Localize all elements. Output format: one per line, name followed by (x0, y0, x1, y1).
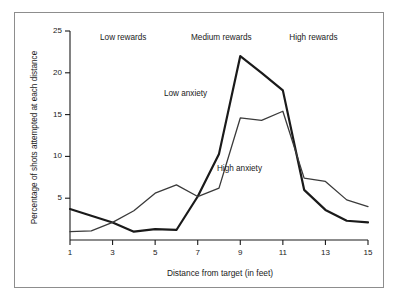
x-tick-label-11: 11 (271, 248, 295, 257)
x-tick-label-1: 1 (58, 248, 82, 257)
y-tick-marks (65, 31, 70, 198)
region-label-medium-rewards: Medium rewards (191, 33, 252, 42)
chart-figure: 510152025 13579111315 Percentage of shot… (0, 0, 404, 300)
x-tick-label-13: 13 (313, 248, 337, 257)
y-tick-label-15: 15 (38, 110, 62, 119)
series-line-low-anxiety (70, 56, 368, 232)
y-tick-label-5: 5 (38, 193, 62, 202)
series-label-low-anxiety: Low anxiety (164, 89, 207, 98)
data-series-group (70, 56, 368, 232)
x-tick-label-15: 15 (356, 248, 380, 257)
series-label-high-anxiety: High anxiety (217, 164, 262, 173)
x-tick-marks (70, 240, 368, 245)
y-axis-title: Percentage of shots attempted at each di… (30, 38, 39, 238)
region-label-high-rewards: High rewards (289, 33, 337, 42)
x-tick-label-5: 5 (143, 248, 167, 257)
x-tick-label-9: 9 (228, 248, 252, 257)
x-axis-title: Distance from target (in feet) (70, 268, 370, 278)
y-tick-label-20: 20 (38, 68, 62, 77)
y-tick-label-25: 25 (38, 26, 62, 35)
x-tick-label-7: 7 (186, 248, 210, 257)
x-tick-label-3: 3 (101, 248, 125, 257)
y-tick-label-10: 10 (38, 151, 62, 160)
region-label-low-rewards: Low rewards (100, 33, 146, 42)
